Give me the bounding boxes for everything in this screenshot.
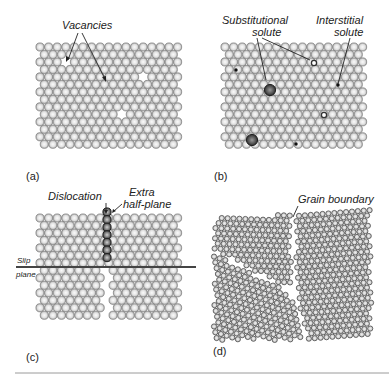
panel-d: Grain boundary (d) [211, 193, 375, 357]
interstitial-label-line1: Interstitial [316, 14, 364, 26]
crystal-defects-figure: Vacancies (a) Substitutional solute Inte… [0, 0, 389, 379]
substitutional-label-line1: Substitutional [222, 14, 289, 26]
substitutional-label-line2: solute [252, 26, 281, 38]
vacancies-label: Vacancies [62, 19, 113, 31]
panel-d-label: (d) [213, 345, 226, 357]
grain-boundary-lattice [211, 208, 373, 343]
panel-c-label: (c) [26, 351, 39, 363]
interstitial-label-line2: solute [334, 26, 363, 38]
grain-boundary-label: Grain boundary [298, 193, 375, 205]
vacancy-lattice [36, 43, 182, 148]
slip-plane-label-line2: plane [15, 270, 36, 279]
slip-plane-label-line1: Slip [17, 256, 31, 265]
dislocation-label: Dislocation [48, 190, 102, 202]
extra-half-plane-label-line1: Extra [129, 186, 155, 198]
panel-a-label: (a) [26, 170, 39, 182]
panel-b-label: (b) [214, 170, 227, 182]
dislocation-lattice [36, 208, 182, 319]
panel-b: Substitutional solute Interstitial solut… [214, 14, 367, 182]
panel-a: Vacancies (a) [26, 19, 182, 182]
panel-c: Dislocation Extra half-plane Slip plane … [15, 186, 196, 363]
extra-half-plane-label-line2: half-plane [123, 198, 171, 210]
